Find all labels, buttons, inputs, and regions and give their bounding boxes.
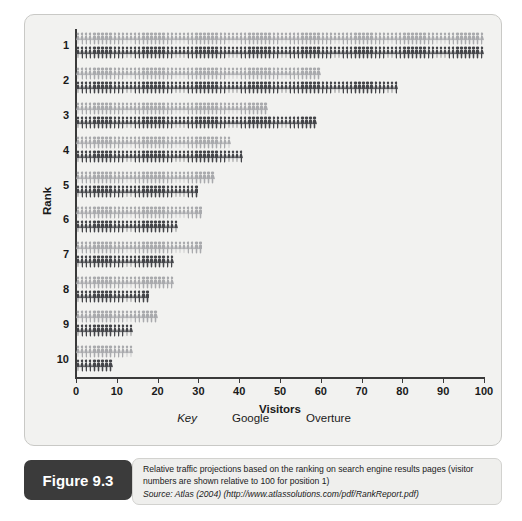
rank-axis-label: 3: [63, 109, 69, 121]
pictogram-bar-overture: [76, 255, 174, 268]
rank-group: 1: [76, 29, 484, 64]
x-tick-label: 0: [73, 385, 79, 397]
x-tick: [443, 377, 444, 383]
pictogram-bar-overture: [76, 359, 113, 372]
caption-main-text: Relative traffic projections based on th…: [143, 464, 473, 486]
x-tick: [362, 377, 363, 383]
pictogram-bar-overture: [76, 220, 178, 233]
rank-axis-label: 9: [63, 318, 69, 330]
rank-axis-label: 6: [63, 213, 69, 225]
rank-group: 3: [76, 99, 484, 134]
x-tick: [280, 377, 281, 383]
rank-axis-label: 1: [63, 39, 69, 51]
pictogram-bar-overture: [76, 290, 149, 303]
x-tick-label: 40: [233, 385, 245, 397]
x-tick-label: 90: [437, 385, 449, 397]
rank-group: 10: [76, 342, 484, 377]
x-tick-label: 100: [475, 385, 493, 397]
pictogram-bar-overture: [76, 150, 243, 163]
x-tick-label: 30: [192, 385, 204, 397]
rank-axis-label: 8: [63, 283, 69, 295]
chart-panel: 0102030405060708090100 12345678910 Visit…: [24, 14, 502, 446]
pictogram-bar-google: [76, 345, 133, 358]
rank-group: 6: [76, 203, 484, 238]
pictogram-bar-overture: [76, 185, 198, 198]
pictogram-bar-google: [76, 310, 158, 323]
legend-label: Google: [232, 412, 269, 424]
rank-axis-label: 5: [63, 179, 69, 191]
figure-number-tag: Figure 9.3: [24, 460, 132, 500]
pictogram-bar-google: [76, 241, 202, 254]
y-axis-title: Rank: [41, 187, 53, 215]
rank-group: 8: [76, 273, 484, 308]
x-tick: [117, 377, 118, 383]
pictogram-bar-overture: [76, 46, 484, 59]
x-tick: [76, 377, 77, 383]
plot-area: 0102030405060708090100 12345678910 Visit…: [76, 29, 484, 377]
pictogram-bar-overture: [76, 116, 317, 129]
rank-group: 9: [76, 307, 484, 342]
x-tick-label: 50: [274, 385, 286, 397]
x-tick-label: 70: [355, 385, 367, 397]
figure-root: 0102030405060708090100 12345678910 Visit…: [0, 0, 522, 521]
person-group-icon: [280, 411, 301, 424]
rank-group: 7: [76, 238, 484, 273]
x-tick: [198, 377, 199, 383]
rank-axis-label: 10: [57, 353, 69, 365]
pictogram-bar-overture: [76, 324, 133, 337]
legend-key-label: Key: [177, 412, 197, 424]
pictogram-bar-google: [76, 67, 321, 80]
rank-group: 2: [76, 64, 484, 99]
rank-axis-label: 7: [63, 248, 69, 260]
rank-axis-label: 4: [63, 144, 69, 156]
rank-group: 5: [76, 168, 484, 203]
figure-caption-body: Relative traffic projections based on th…: [132, 458, 502, 505]
x-tick: [239, 377, 240, 383]
pictogram-bar-google: [76, 102, 268, 115]
person-group-icon: [206, 411, 227, 424]
legend-label: Overture: [306, 412, 351, 424]
chart-legend: Key GoogleOverture: [25, 411, 503, 424]
rank-group: 4: [76, 133, 484, 168]
x-tick-label: 10: [111, 385, 123, 397]
caption-source-text: Source: Atlas (2004) (http://www.atlasso…: [143, 488, 493, 500]
pictogram-bar-google: [76, 171, 215, 184]
pictogram-bar-overture: [76, 81, 398, 94]
legend-entries: GoogleOverture: [206, 411, 351, 424]
x-tick: [402, 377, 403, 383]
figure-caption-row: Figure 9.3 Relative traffic projections …: [24, 460, 502, 508]
x-tick: [484, 377, 485, 383]
pictogram-bar-google: [76, 276, 174, 289]
legend-entry-overture: Overture: [280, 411, 351, 424]
x-tick-label: 60: [315, 385, 327, 397]
rank-axis-label: 2: [63, 74, 69, 86]
x-tick-label: 20: [151, 385, 163, 397]
pictogram-bar-google: [76, 136, 231, 149]
x-tick: [321, 377, 322, 383]
x-tick-label: 80: [396, 385, 408, 397]
pictogram-bar-google: [76, 206, 202, 219]
legend-entry-google: Google: [206, 411, 269, 424]
pictogram-bar-google: [76, 32, 484, 45]
x-tick: [158, 377, 159, 383]
